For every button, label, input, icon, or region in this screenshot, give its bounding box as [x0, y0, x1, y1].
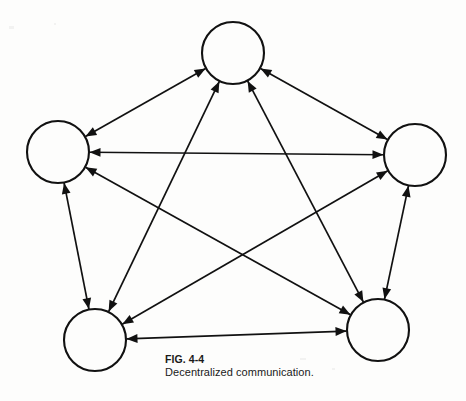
figure-container: FIG. 4-4 Decentralized communication.	[0, 0, 466, 401]
arrowhead-to-bottom-right	[354, 290, 363, 302]
network-diagram	[0, 0, 466, 401]
arrowhead-to-bottom-left	[122, 315, 134, 324]
arrowhead-to-right	[402, 186, 411, 198]
arrowhead-to-right	[372, 150, 383, 159]
edge-top-to-bottom-right	[248, 81, 364, 302]
arrowhead-to-bottom-left	[126, 334, 137, 343]
edge-right-to-bottom-right	[385, 186, 409, 299]
edge-right-to-bottom-left	[122, 171, 387, 324]
arrowhead-to-right	[376, 130, 388, 139]
edge-top-to-right	[260, 68, 387, 139]
arrowhead-to-left	[62, 183, 71, 195]
nodes-layer	[27, 22, 446, 371]
figure-caption: FIG. 4-4 Decentralized communication.	[165, 353, 395, 379]
arrowhead-to-top	[260, 68, 272, 77]
node-right	[384, 124, 446, 186]
arrowhead-to-bottom-left	[109, 300, 118, 312]
edge-top-to-left	[85, 69, 205, 137]
node-bottom-right	[347, 299, 409, 361]
arrowhead-to-right	[376, 171, 388, 180]
arrowhead-to-top	[194, 69, 206, 78]
arrowhead-to-top	[248, 81, 257, 93]
node-left	[27, 121, 89, 183]
arrowhead-to-bottom-right	[339, 305, 351, 314]
arrowhead-to-bottom-left	[82, 297, 91, 309]
arrowhead-to-left	[85, 127, 97, 136]
edge-left-to-bottom-left	[64, 183, 89, 309]
edge-left-to-bottom-right	[86, 167, 351, 314]
figure-caption-text: Decentralized communication.	[165, 366, 395, 379]
arrowhead-to-left	[86, 167, 98, 176]
arrowhead-to-bottom-right	[382, 288, 391, 300]
edge-left-to-right	[89, 152, 383, 154]
node-bottom-left	[64, 309, 126, 371]
figure-number-label: FIG. 4-4	[165, 353, 395, 365]
node-top	[202, 22, 264, 84]
edges-layer	[62, 68, 411, 342]
edge-bottom-left-to-bottom-right	[126, 331, 346, 339]
arrowhead-to-left	[89, 148, 100, 157]
arrowhead-to-bottom-right	[335, 327, 346, 336]
arrowhead-to-top	[211, 81, 220, 93]
